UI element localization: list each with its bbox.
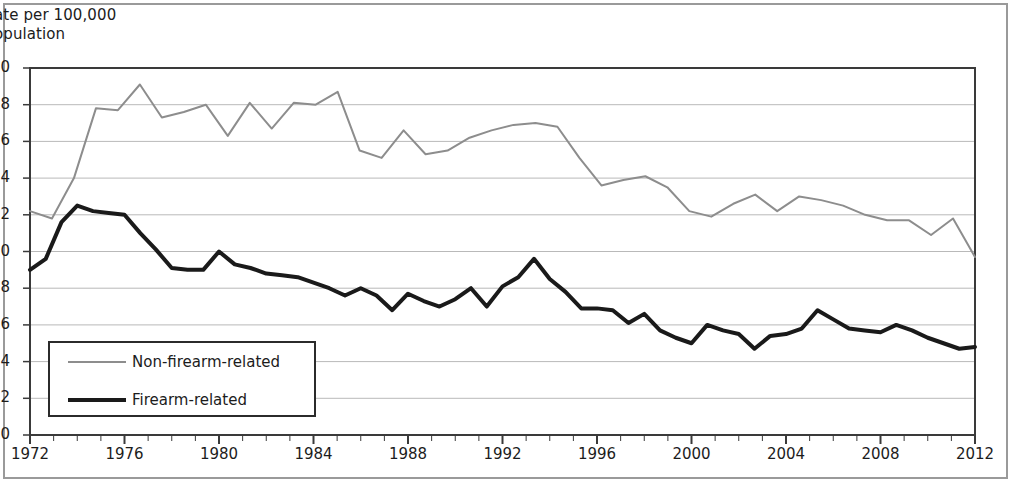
- series-line-non-firearm-related: [30, 85, 975, 257]
- y-axis-tick-label: 0: [0, 244, 10, 259]
- legend-item-non-firearm: Non-firearm-related: [50, 343, 314, 381]
- chart-page: ate per 100,000 opulation 08642086420 19…: [0, 0, 1014, 484]
- y-axis-tick-label: 0: [0, 60, 10, 75]
- series-line-firearm-related: [30, 206, 975, 349]
- x-axis-tick-label: 2008: [851, 447, 911, 462]
- x-axis-tick-label: 1988: [378, 447, 438, 462]
- y-axis-tick-label: 2: [0, 390, 10, 405]
- x-axis-tick-label: 1980: [189, 447, 249, 462]
- y-axis-ticks: [23, 68, 30, 435]
- legend-label-non-firearm: Non-firearm-related: [132, 353, 280, 371]
- y-axis-tick-label: 8: [0, 97, 10, 112]
- x-axis-tick-label: 2000: [662, 447, 722, 462]
- y-axis-tick-label: 4: [0, 354, 10, 369]
- legend-line-swatch-firearm: [68, 393, 126, 407]
- chart-legend: Non-firearm-related Firearm-related: [48, 341, 316, 417]
- y-axis-tick-label: 8: [0, 280, 10, 295]
- x-axis-tick-label: 1976: [95, 447, 155, 462]
- x-axis-tick-label: 2012: [945, 447, 1005, 462]
- y-axis-tick-label: 0: [0, 427, 10, 442]
- x-axis-tick-label: 1992: [473, 447, 533, 462]
- y-axis-tick-label: 4: [0, 170, 10, 185]
- x-axis-ticks: [30, 435, 975, 444]
- y-axis-tick-label: 2: [0, 207, 10, 222]
- legend-item-firearm: Firearm-related: [50, 381, 314, 419]
- legend-label-firearm: Firearm-related: [132, 391, 247, 409]
- x-axis-tick-label: 1996: [567, 447, 627, 462]
- x-axis-tick-label: 2004: [756, 447, 816, 462]
- y-axis-tick-label: 6: [0, 133, 10, 148]
- data-series-layer: [30, 85, 975, 349]
- x-axis-tick-label: 1972: [0, 447, 60, 462]
- legend-line-swatch-non-firearm: [68, 355, 126, 369]
- y-axis-tick-label: 6: [0, 317, 10, 332]
- x-axis-tick-label: 1984: [284, 447, 344, 462]
